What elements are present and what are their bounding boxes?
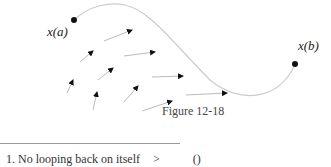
list-item-1: 1. No looping back on itself > () [6, 152, 201, 167]
paren-glyph: () [193, 152, 201, 166]
divider [0, 143, 180, 144]
arrow-glyph: > [153, 152, 160, 166]
field-arrow [186, 93, 227, 95]
label-x-b: x(b) [298, 38, 319, 54]
field-arrow [80, 51, 93, 62]
path-curve [74, 4, 295, 96]
field-arrow [67, 80, 73, 93]
field-arrow [98, 68, 113, 80]
label-x-a: x(a) [47, 24, 68, 40]
point-a [71, 17, 77, 23]
point-b [292, 61, 298, 67]
field-arrow [124, 86, 138, 102]
field-arrows [67, 30, 227, 111]
field-arrow [124, 52, 155, 56]
field-arrow [93, 92, 97, 110]
figure-caption: Figure 12-18 [162, 104, 224, 119]
list-item-text: 1. No looping back on itself [6, 152, 140, 166]
field-arrow [104, 30, 132, 41]
field-arrow [152, 76, 183, 77]
